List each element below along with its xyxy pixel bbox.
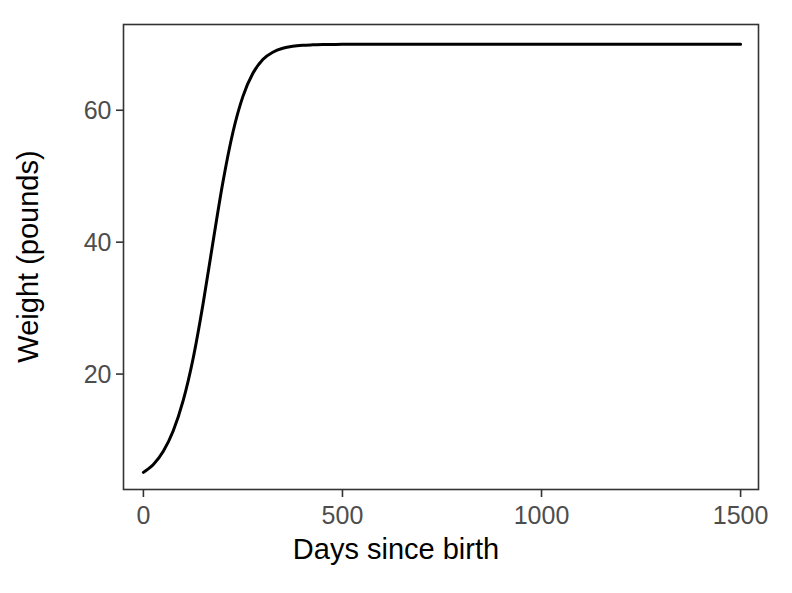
y-tick-label: 20 (56, 360, 112, 389)
plot-canvas (0, 0, 792, 593)
x-tick-label: 0 (136, 501, 150, 530)
y-tick-label: 40 (56, 228, 112, 257)
x-tick-label: 1000 (514, 501, 570, 530)
x-tick-label: 1500 (713, 501, 769, 530)
x-tick-label: 500 (322, 501, 364, 530)
panel-border (124, 25, 759, 490)
y-axis-title: Weight (pounds) (12, 150, 45, 362)
y-axis-title-container: Weight (pounds) (0, 0, 56, 513)
y-tick-label: 60 (56, 96, 112, 125)
chart-figure: 050010001500 204060 Days since birth Wei… (0, 0, 792, 593)
x-axis-title: Days since birth (0, 533, 792, 566)
